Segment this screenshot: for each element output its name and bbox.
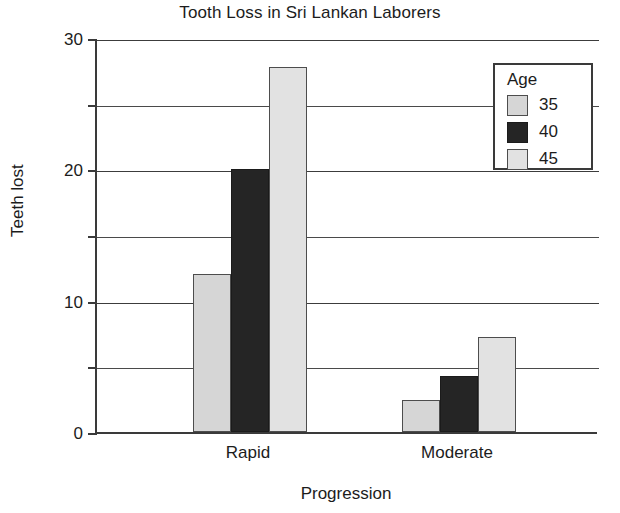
y-axis-tick-major (88, 302, 97, 304)
x-axis-category-label: Rapid (226, 443, 270, 463)
y-axis-tick-label: 20 (64, 161, 83, 181)
y-axis-tick-major (88, 39, 97, 41)
legend-swatch-icon (507, 95, 528, 116)
legend-item-label: 35 (539, 95, 558, 115)
gridline-major (97, 40, 599, 41)
y-axis-tick-label: 30 (64, 30, 83, 50)
chart-title: Tooth Loss in Sri Lankan Laborers (0, 3, 620, 23)
y-axis-tick-label: 0 (74, 424, 83, 444)
bar-moderate-age-40 (440, 376, 478, 432)
legend-swatch-icon (507, 122, 528, 143)
legend-item-age-40: 40 (507, 118, 591, 146)
bar-rapid-age-45 (269, 67, 307, 432)
y-axis-tick-label: 10 (64, 293, 83, 313)
bar-chart: Tooth Loss in Sri Lankan Laborers Teeth … (0, 0, 620, 513)
y-axis-title: Teeth lost (8, 164, 28, 237)
bar-rapid-age-35 (193, 274, 231, 432)
x-axis-title: Progression (95, 484, 597, 504)
legend-item-age-45: 45 (507, 145, 591, 173)
gridline-major (97, 303, 599, 304)
legend-title: Age (507, 70, 591, 90)
y-axis-tick-major (88, 433, 97, 435)
legend: Age 354045 (493, 63, 593, 170)
y-axis-tick-minor (88, 105, 97, 107)
legend-swatch-icon (507, 149, 528, 170)
y-axis-tick-minor (88, 236, 97, 238)
bar-moderate-age-45 (478, 337, 516, 432)
y-axis-tick-minor (88, 367, 97, 369)
y-axis-tick-major (88, 170, 97, 172)
legend-item-label: 40 (539, 122, 558, 142)
gridline-minor (97, 237, 599, 238)
gridline-minor (97, 368, 599, 369)
bar-rapid-age-40 (231, 169, 269, 432)
bar-moderate-age-35 (402, 400, 440, 432)
legend-item-age-35: 35 (507, 91, 591, 119)
legend-item-label: 45 (539, 149, 558, 169)
x-axis-category-label: Moderate (421, 443, 493, 463)
